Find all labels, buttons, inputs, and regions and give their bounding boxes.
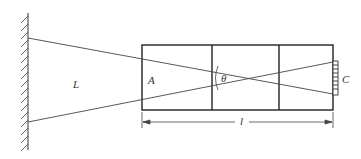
label-C: C: [342, 73, 350, 85]
angle-arc: [216, 66, 219, 90]
label-l: l: [240, 115, 243, 127]
label-A: A: [147, 74, 155, 86]
label-L: L: [72, 78, 79, 90]
wall: [21, 13, 28, 151]
optics-diagram: L A θ C l: [0, 0, 361, 159]
detector-c: [333, 61, 338, 95]
label-theta: θ: [221, 72, 227, 84]
dimension-l: [142, 112, 333, 128]
wall-hatching: [21, 16, 28, 151]
tube-body: [142, 45, 333, 110]
